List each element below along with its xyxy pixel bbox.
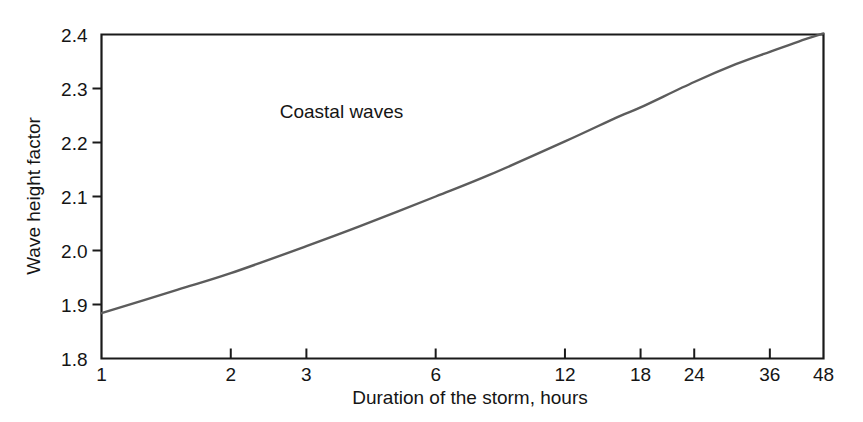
x-axis-title: Duration of the storm, hours (352, 387, 588, 408)
y-tick-label-2.1: 2.1 (61, 187, 87, 208)
x-tick-label-3: 3 (301, 364, 312, 385)
y-tick-label-1.8: 1.8 (61, 349, 87, 370)
y-tick-label-2.0: 2.0 (61, 241, 87, 262)
y-tick-label-2.4: 2.4 (61, 25, 88, 46)
x-tick-label-36: 36 (759, 364, 780, 385)
y-tick-label-1.9: 1.9 (61, 295, 87, 316)
chart-page: 1.81.92.02.12.22.32.4 12361218243648 Coa… (0, 0, 863, 422)
wave-height-factor-chart: 1.81.92.02.12.22.32.4 12361218243648 Coa… (0, 0, 863, 422)
y-tick-label-2.3: 2.3 (61, 79, 87, 100)
x-tick-label-1: 1 (96, 364, 107, 385)
x-tick-label-48: 48 (813, 364, 834, 385)
x-tick-label-6: 6 (430, 364, 441, 385)
y-tick-label-2.2: 2.2 (61, 133, 87, 154)
x-tick-label-12: 12 (554, 364, 575, 385)
x-tick-label-24: 24 (684, 364, 706, 385)
y-axis-title: Wave height factor (23, 116, 44, 274)
series-annotation-coastal-waves: Coastal waves (280, 101, 404, 122)
x-tick-label-18: 18 (630, 364, 651, 385)
x-tick-label-2: 2 (225, 364, 236, 385)
